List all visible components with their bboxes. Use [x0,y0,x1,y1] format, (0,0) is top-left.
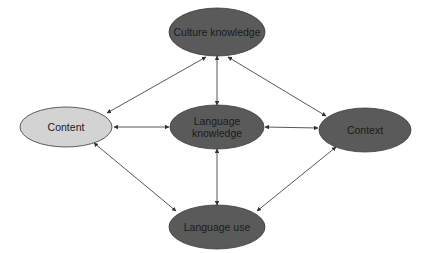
edge-content-language-use [94,143,176,211]
node-culture-knowledge: Culture knowledge [169,8,265,56]
node-label-context: Context [347,124,383,136]
edge-culture-knowledge-content [107,57,206,113]
edge-culture-knowledge-context [228,57,326,116]
diagram-canvas: Culture knowledgeContentLanguageknowledg… [0,0,430,253]
node-label-language-knowledge: knowledge [192,127,242,139]
node-content: Content [20,107,112,147]
node-label-content: Content [48,121,85,133]
node-label-language-use: Language use [184,221,251,233]
node-context: Context [319,108,411,152]
nodes-group: Culture knowledgeContentLanguageknowledg… [20,8,411,249]
edge-context-language-use [257,147,336,211]
edge-language-knowledge-context [265,127,318,128]
node-language-knowledge: Languageknowledge [170,105,264,149]
diagram: Culture knowledgeContentLanguageknowledg… [0,0,430,253]
node-label-language-knowledge: Language [194,115,241,127]
node-label-culture-knowledge: Culture knowledge [174,26,261,38]
node-language-use: Language use [169,205,265,249]
